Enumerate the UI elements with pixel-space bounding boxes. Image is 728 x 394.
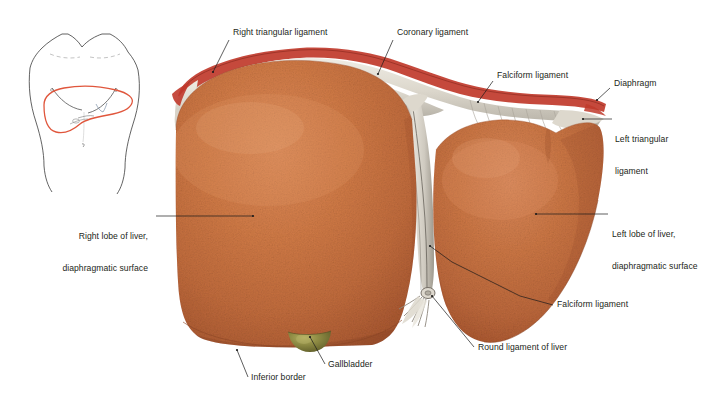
label-left-lobe-of-liver: Left lobe of liver, diaphragmatic surfac… [612, 208, 698, 292]
gallbladder [288, 331, 331, 352]
label-line-1: Left lobe of liver, [612, 229, 698, 240]
label-line-2: diaphragmatic surface [612, 261, 698, 272]
label-right-lobe-of-liver: Right lobe of liver, diaphragmatic surfa… [0, 210, 148, 294]
body-orientation-diagram [29, 34, 139, 194]
label-gallbladder: Gallbladder [328, 359, 373, 370]
label-falciform-ligament-top: Falciform ligament [497, 70, 568, 81]
label-line-2: ligament [615, 166, 668, 177]
right-lobe-of-liver [172, 60, 420, 352]
liver-anatomy-figure: Right triangular ligament Coronary ligam… [0, 0, 728, 394]
label-line-2: diaphragmatic surface [0, 263, 148, 274]
anatomy-illustration [0, 0, 728, 394]
label-inferior-border: Inferior border [251, 372, 306, 383]
label-coronary-ligament: Coronary ligament [397, 27, 468, 38]
label-line-1: Left triangular [615, 134, 668, 145]
label-left-triangular-ligament: Left triangular ligament [615, 113, 668, 197]
label-round-ligament-of-liver: Round ligament of liver [478, 342, 567, 353]
label-falciform-ligament-lower: Falciform ligament [557, 299, 628, 310]
label-right-triangular-ligament: Right triangular ligament [233, 27, 327, 38]
label-line-1: Right lobe of liver, [0, 231, 148, 242]
label-diaphragm: Diaphragm [614, 78, 656, 89]
